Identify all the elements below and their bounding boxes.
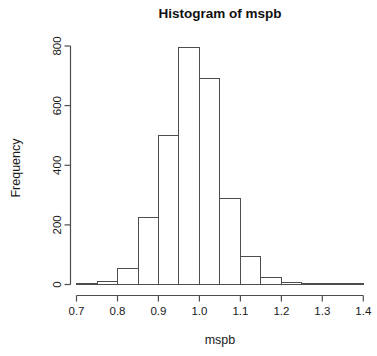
y-tick-label: 400	[51, 156, 63, 175]
histogram-bar	[138, 217, 159, 284]
histogram-bar	[199, 79, 220, 285]
histogram-bar	[158, 135, 179, 284]
histogram-bar	[240, 256, 261, 284]
x-tick-label: 1.0	[191, 305, 207, 317]
histogram-bar	[118, 268, 139, 284]
x-tick-label: 0.7	[69, 305, 85, 317]
histogram-bar	[343, 284, 364, 285]
y-tick-label: 800	[51, 36, 63, 55]
histogram-bar	[322, 284, 343, 285]
histogram-bar	[179, 48, 200, 285]
histogram-plot: 02004006008000.70.80.91.01.11.21.31.4	[0, 0, 377, 356]
histogram-figure: Histogram of mspb Frequency mspb 0200400…	[0, 0, 377, 356]
histogram-bar	[302, 283, 323, 285]
y-tick-label: 200	[51, 215, 63, 234]
histogram-bar	[220, 198, 241, 285]
x-tick-label: 1.2	[273, 305, 289, 317]
histogram-bar	[77, 284, 98, 285]
histogram-bar	[261, 278, 282, 285]
x-tick-label: 1.3	[314, 305, 330, 317]
y-tick-label: 0	[51, 281, 63, 287]
x-tick-label: 0.8	[110, 305, 126, 317]
histogram-bar	[281, 282, 302, 284]
x-tick-label: 1.4	[355, 305, 372, 317]
x-tick-label: 0.9	[150, 305, 166, 317]
histogram-bar	[97, 282, 118, 285]
y-tick-label: 600	[51, 96, 63, 115]
x-tick-label: 1.1	[232, 305, 248, 317]
